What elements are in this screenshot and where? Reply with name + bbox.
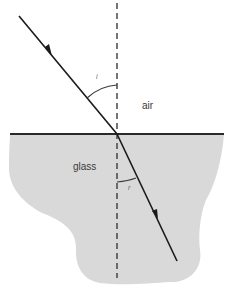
refraction-angle-label: r [128, 184, 130, 191]
air-label: air [142, 100, 153, 111]
refraction-diagram [0, 0, 232, 286]
glass-label: glass [73, 161, 96, 172]
incidence-angle-arc [87, 85, 117, 98]
incident-arrow-icon [45, 44, 52, 56]
incidence-angle-label: i [96, 73, 98, 80]
incident-ray [19, 16, 117, 134]
